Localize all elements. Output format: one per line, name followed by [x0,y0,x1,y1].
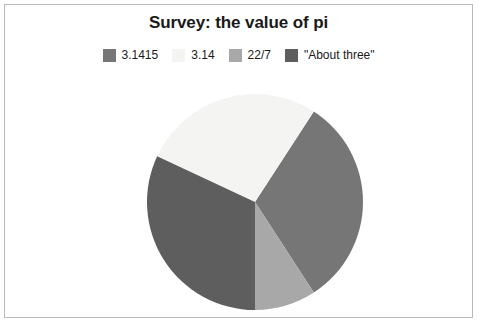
legend-item-about-three[interactable]: "About three" [285,48,375,62]
legend-swatch-about-three-icon [285,49,298,62]
legend-label-3-14: 3.14 [191,48,214,62]
legend-label-about-three: "About three" [304,48,375,62]
pie-slice-group [147,94,363,310]
legend-label-22-7: 22/7 [248,48,271,62]
legend-label-3-1415: 3.1415 [122,48,159,62]
legend-swatch-3-1415-icon [103,49,116,62]
legend-item-22-7[interactable]: 22/7 [229,48,271,62]
page-title: Survey: the value of pi [5,13,472,33]
legend-item-3-1415[interactable]: 3.1415 [103,48,159,62]
chart-frame: Survey: the value of pi 3.1415 3.14 22/7… [4,4,473,318]
chart-legend: 3.1415 3.14 22/7 "About three" [5,48,472,62]
legend-swatch-3-14-icon [172,49,185,62]
legend-item-3-14[interactable]: 3.14 [172,48,214,62]
legend-swatch-22-7-icon [229,49,242,62]
pie-chart [144,91,366,313]
